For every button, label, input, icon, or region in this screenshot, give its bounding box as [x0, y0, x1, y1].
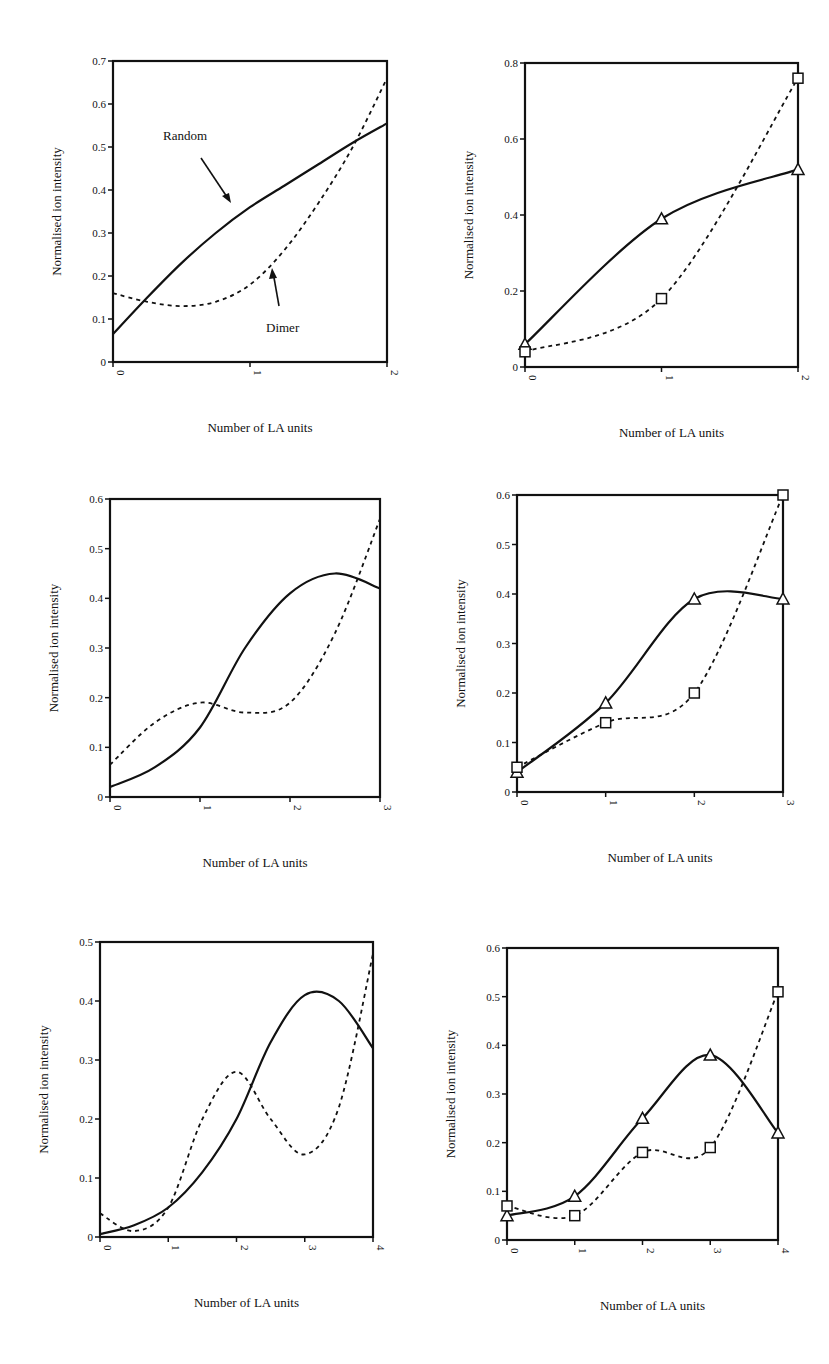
- x-tick-label: 3: [712, 1248, 724, 1254]
- x-tick-label: 4: [780, 1248, 792, 1254]
- square-marker-icon: [502, 1201, 512, 1211]
- y-tick-label: 0: [495, 1234, 501, 1246]
- square-marker-icon: [638, 1147, 648, 1157]
- series-random-line: [507, 1055, 778, 1216]
- y-axis-label: Normalised ion intensity: [443, 1029, 458, 1158]
- square-marker-icon: [705, 1143, 715, 1153]
- y-tick-label: 0.2: [486, 1137, 500, 1149]
- square-marker-icon: [570, 1211, 580, 1221]
- x-tick-label: 1: [577, 1248, 589, 1254]
- y-tick-label: 0.6: [486, 942, 500, 954]
- y-tick-label: 0.1: [486, 1185, 500, 1197]
- chart-panel-6: 00.10.20.30.40.50.601234Normalised ion i…: [0, 0, 829, 1364]
- y-tick-label: 0.5: [486, 991, 500, 1003]
- square-marker-icon: [773, 987, 783, 997]
- y-tick-label: 0.3: [486, 1088, 500, 1100]
- x-axis: 01234: [507, 1240, 792, 1254]
- chart-svg: 00.10.20.30.40.50.601234Normalised ion i…: [0, 0, 829, 1364]
- x-axis-label: Number of LA units: [600, 1298, 705, 1313]
- x-tick-label: 2: [645, 1248, 657, 1254]
- plot-frame: [507, 948, 778, 1240]
- series-dimer-line: [507, 992, 778, 1218]
- y-tick-label: 0.4: [486, 1039, 500, 1051]
- x-tick-label: 0: [509, 1248, 521, 1254]
